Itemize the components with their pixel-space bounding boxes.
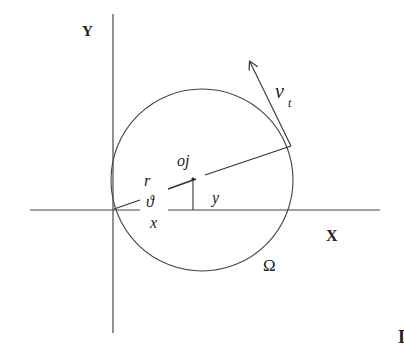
radius-line-segment-3 bbox=[205, 146, 291, 175]
radius-line-segment-2 bbox=[168, 179, 196, 189]
polar-coordinate-diagram: Y X v t oj r ϑ x y Ω I bbox=[0, 0, 404, 345]
x-axis-label: X bbox=[326, 227, 338, 244]
y-axis-label: Y bbox=[82, 23, 93, 39]
radius-label: r bbox=[144, 172, 151, 189]
point-oj-label: oj bbox=[177, 152, 190, 170]
edge-mark: I bbox=[398, 327, 404, 345]
y-coordinate-label: y bbox=[210, 189, 220, 207]
tangent-velocity-arrow bbox=[250, 62, 291, 146]
region-omega-label: Ω bbox=[263, 256, 276, 275]
x-coordinate-label: x bbox=[149, 214, 157, 231]
tangent-velocity-subscript: t bbox=[288, 96, 292, 110]
radius-line-segment-1 bbox=[114, 200, 140, 209]
angle-label: ϑ bbox=[146, 193, 155, 210]
tangent-velocity-label: v bbox=[275, 80, 284, 102]
region-circle bbox=[111, 89, 293, 271]
